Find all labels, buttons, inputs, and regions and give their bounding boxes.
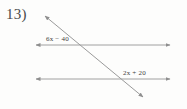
lower-angle-label: 2x + 20 [123, 69, 146, 77]
geometry-problem-figure: 13) 6x − 40 2x + 20 [0, 0, 187, 109]
transversal-line [45, 16, 143, 97]
parallel-lines-transversal-diagram [0, 0, 187, 109]
upper-angle-label: 6x − 40 [46, 35, 69, 43]
